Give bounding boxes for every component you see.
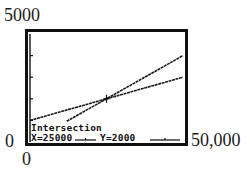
calculator-screen: Intersection X=25000 Y=2000 <box>25 29 188 146</box>
y-axis-min-label: 0 <box>5 132 14 150</box>
x-axis-max-label: 50,000 <box>191 131 241 149</box>
y-readout: Y=2000 <box>100 133 136 143</box>
intersection-cursor-icon <box>104 95 110 103</box>
x-readout: X=25000 <box>31 133 72 143</box>
x-axis-min-label: 0 <box>22 150 31 168</box>
y-axis-max-label: 5000 <box>4 6 40 24</box>
graph-lines <box>30 56 183 122</box>
